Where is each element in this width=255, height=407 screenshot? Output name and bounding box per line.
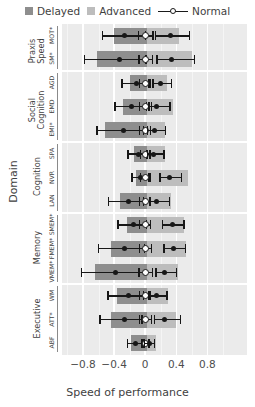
error-bar-advanced [150, 201, 169, 202]
error-bar-cap [139, 102, 140, 111]
error-bar-cap [150, 220, 151, 229]
error-bar-delayed [85, 59, 146, 60]
error-bar-cap [114, 102, 115, 111]
error-bar-cap [169, 197, 170, 206]
gridline-major [144, 24, 145, 355]
facet-group-bracket [57, 286, 58, 353]
point-estimate-delayed [126, 199, 131, 204]
error-bar-cap [154, 315, 155, 324]
error-bar-cap [180, 315, 181, 324]
error-bar-cap [84, 55, 85, 64]
y-tick-label: ABF [48, 323, 55, 363]
gridline-minor [99, 24, 100, 355]
error-bar-cap [131, 173, 132, 182]
legend-item: Normal [158, 5, 230, 17]
point-estimate-normal [142, 80, 149, 87]
error-bar-cap [138, 268, 139, 277]
error-bar-cap [147, 126, 148, 135]
error-bar-cap [185, 244, 186, 253]
facet-group-label: Cognition [33, 140, 42, 212]
gridline-minor [130, 24, 131, 355]
error-bar-cap [163, 150, 164, 159]
error-bar-advanced [157, 59, 194, 60]
gridline-minor [223, 24, 224, 355]
error-bar-cap [81, 268, 82, 277]
facet-separator [62, 283, 247, 285]
legend-label: Advanced [99, 5, 151, 17]
x-tick-label: 0.8 [187, 358, 227, 370]
error-bar-cap [138, 31, 139, 40]
point-estimate-delayed [121, 128, 126, 133]
legend-line-marker-icon [158, 7, 188, 16]
figure: DelayedAdvancedNormal Domain MOT*SM*Prax… [0, 0, 255, 407]
error-bar-cap [166, 291, 167, 300]
point-estimate-normal [142, 245, 149, 252]
legend-swatch-icon [87, 7, 95, 15]
error-bar-cap [140, 173, 141, 182]
error-bar-advanced [155, 319, 181, 320]
error-bar-cap [159, 173, 160, 182]
error-bar-cap [152, 55, 153, 64]
error-bar-cap [98, 244, 99, 253]
error-bar-cap [96, 126, 97, 135]
x-axis-title: Speed of performance [0, 386, 255, 399]
error-bar-cap [152, 31, 153, 40]
facet-group-label: SocialCognition [28, 74, 46, 146]
error-bar-cap [151, 244, 152, 253]
error-bar-advanced [149, 106, 170, 107]
error-bar-cap [108, 197, 109, 206]
error-bar-cap [127, 339, 128, 348]
gridline-minor [161, 24, 162, 355]
facet-group-bracket [57, 73, 58, 140]
error-bar-cap [148, 102, 149, 111]
point-estimate-normal [142, 316, 149, 323]
point-estimate-delayed [122, 246, 127, 251]
point-estimate-normal [142, 174, 149, 181]
point-estimate-normal [142, 56, 149, 63]
error-bar-cap [147, 150, 148, 159]
legend-label: Normal [192, 5, 230, 17]
point-estimate-advanced [147, 341, 152, 346]
point-estimate-delayed [117, 57, 122, 62]
error-bar-cap [139, 197, 140, 206]
plot-panel [62, 24, 247, 355]
error-bar-cap [171, 79, 172, 88]
error-bar-cap [139, 79, 140, 88]
error-bar-cap [144, 339, 145, 348]
error-bar-cap [154, 339, 155, 348]
error-bar-cap [139, 244, 140, 253]
error-bar-cap [127, 150, 128, 159]
facet-separator [62, 70, 247, 72]
gridline-major [207, 24, 208, 355]
error-bar-cap [99, 315, 100, 324]
error-bar-cap [162, 220, 163, 229]
error-bar-cap [189, 31, 190, 40]
facet-separator [62, 212, 247, 214]
error-bar-cap [151, 315, 152, 324]
error-bar-cap [163, 244, 164, 253]
facet-group-bracket [57, 26, 58, 69]
error-bar-cap [107, 291, 108, 300]
gridline-major [82, 24, 83, 355]
error-bar-cap [149, 173, 150, 182]
facet-separator [62, 141, 247, 143]
error-bar-cap [169, 102, 170, 111]
facet-group-bracket [57, 144, 58, 211]
point-estimate-advanced [162, 270, 167, 275]
error-bar-cap [148, 291, 149, 300]
point-estimate-advanced [151, 152, 156, 157]
point-estimate-normal [142, 198, 149, 205]
error-bar-cap [117, 220, 118, 229]
error-bar-cap [152, 268, 153, 277]
error-bar-cap [194, 55, 195, 64]
error-bar-cap [183, 220, 184, 229]
error-bar-delayed [81, 272, 138, 273]
error-bar-cap [181, 173, 182, 182]
point-estimate-normal [142, 269, 149, 276]
error-bar-cap [139, 126, 140, 135]
error-bar-cap [156, 55, 157, 64]
gridline-minor [192, 24, 193, 355]
error-bar-cap [176, 268, 177, 277]
error-bar-cap [165, 126, 166, 135]
point-estimate-normal [142, 32, 149, 39]
